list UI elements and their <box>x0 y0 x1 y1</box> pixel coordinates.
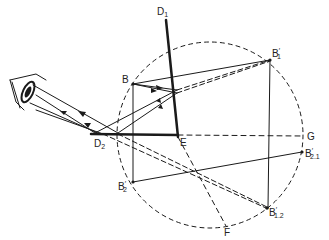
virtual-ray-b1p-a <box>177 60 270 90</box>
ray-d1-eye-b <box>118 93 177 133</box>
label-b: B <box>122 74 129 85</box>
arrowhead <box>158 104 163 109</box>
label-b12p: B′1.2 <box>269 206 284 219</box>
label-b1p: B′1 <box>272 47 281 60</box>
line-b-b1p <box>133 60 270 84</box>
ray-to-eye-a <box>33 85 118 133</box>
virtual-ray-b1p-b <box>177 61 270 93</box>
extension-e-f <box>178 137 226 226</box>
label-b2p: B′2 <box>118 180 127 193</box>
eye-icon <box>10 74 46 110</box>
extension-e-g <box>178 135 303 136</box>
label-d2: D2 <box>94 138 105 150</box>
ray-to-eye-d <box>36 110 103 134</box>
ray-to-eye-c <box>36 95 95 133</box>
line-b1p-b12p <box>268 60 270 208</box>
point-b <box>131 82 134 85</box>
point-b21p <box>300 150 303 153</box>
label-d1: D1 <box>157 6 168 18</box>
label-b21p: B′2.1 <box>305 147 320 160</box>
mirror-reflection-diagram: D1 B B′1 E D2 G B′2.1 B′2 B′1.2 F <box>0 0 329 240</box>
label-f: F <box>224 227 230 238</box>
line-b2p-b21p <box>133 152 302 182</box>
label-e: E <box>180 137 187 148</box>
label-g: G <box>307 131 315 142</box>
mirror-d1 <box>166 20 178 137</box>
point-b2p <box>131 180 134 183</box>
